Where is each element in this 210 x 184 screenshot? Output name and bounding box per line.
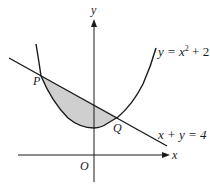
- x-axis-arrow-icon: [162, 152, 170, 158]
- parabola-equation-label: y = x2 + 2: [158, 45, 209, 58]
- y-axis-arrow-icon: [91, 19, 97, 27]
- shaded-region: [41, 76, 118, 128]
- point-q-label: Q: [113, 122, 122, 134]
- graph-diagram: y x O P Q y = x2 + 2 x + y = 4: [0, 0, 210, 184]
- point-p-label: P: [33, 75, 40, 87]
- y-axis-label: y: [91, 4, 96, 16]
- x-axis-label: x: [172, 149, 177, 161]
- origin-label: O: [80, 160, 89, 172]
- line-x-plus-y-eq-4: [9, 58, 167, 146]
- line-equation-label: x + y = 4: [158, 128, 207, 141]
- parabola-equation-text: y = x: [158, 44, 185, 59]
- parabola-equation-tail: + 2: [189, 44, 209, 59]
- graph-canvas: [0, 0, 210, 184]
